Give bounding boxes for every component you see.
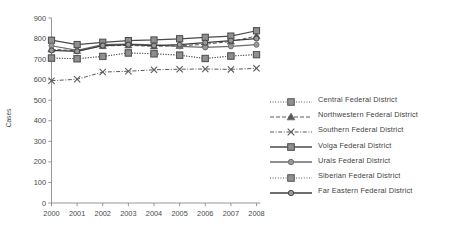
data-point-marker — [254, 36, 259, 41]
legend-item-label: Central Federal District — [314, 95, 397, 104]
legend-item: Siberian Federal District — [268, 168, 454, 183]
x-tick-label: 2008 — [248, 209, 264, 218]
legend-key-square-icon — [268, 139, 314, 151]
data-point-marker — [151, 43, 156, 48]
data-point-marker — [288, 98, 295, 105]
data-point-marker — [253, 51, 259, 57]
data-point-marker — [100, 69, 106, 75]
data-point-marker — [74, 56, 80, 62]
y-tick-label: 0 — [42, 199, 46, 208]
data-point-marker — [151, 51, 157, 57]
data-point-marker — [228, 44, 233, 49]
y-tick-label: 700 — [34, 55, 46, 64]
data-point-marker — [74, 41, 80, 47]
chart-legend: Central Federal DistrictNorthwestern Fed… — [268, 92, 454, 198]
data-point-marker — [75, 49, 80, 54]
data-point-marker — [48, 55, 54, 61]
y-tick-label: 400 — [34, 116, 46, 125]
legend-item: Far Eastern Federal District — [268, 183, 454, 198]
data-point-marker — [100, 53, 106, 59]
data-point-marker — [177, 36, 183, 42]
data-point-marker — [288, 144, 295, 151]
data-point-marker — [100, 43, 105, 48]
legend-key-circle-icon — [268, 154, 314, 166]
y-tick-label: 900 — [34, 14, 46, 23]
data-point-marker — [228, 53, 234, 59]
x-tick-label: 2000 — [43, 209, 59, 218]
legend-item-label: Urals Federal District — [314, 156, 390, 165]
legend-item: Volga Federal District — [268, 138, 454, 153]
legend-key-square-icon — [268, 170, 314, 182]
legend-item-label: Northwestern Federal District — [314, 110, 418, 119]
legend-key-circle-icon — [268, 185, 314, 197]
legend-item-label: Siberian Federal District — [314, 171, 401, 180]
x-axis: 200020012002200320042005200620072008 — [43, 203, 264, 218]
y-tick-label: 300 — [34, 137, 46, 146]
data-point-marker — [203, 40, 208, 45]
legend-key-triangle-icon — [268, 109, 314, 121]
legend-item-label: Far Eastern Federal District — [314, 186, 413, 195]
series-lines — [48, 28, 260, 84]
y-tick-label: 100 — [34, 178, 46, 187]
legend-item: Urals Federal District — [268, 153, 454, 168]
data-point-marker — [126, 42, 131, 47]
data-point-marker — [253, 65, 259, 71]
x-tick-label: 2002 — [95, 209, 111, 218]
y-axis-title: Cases — [5, 108, 12, 127]
y-tick-label: 800 — [34, 34, 46, 43]
data-point-marker — [288, 190, 293, 195]
data-point-marker — [74, 76, 80, 82]
data-point-marker — [288, 174, 295, 181]
data-point-marker — [177, 52, 183, 58]
data-point-marker — [253, 28, 259, 34]
y-tick-label: 200 — [34, 157, 46, 166]
y-tick-label: 500 — [34, 96, 46, 105]
legend-item-label: Volga Federal District — [314, 141, 392, 150]
data-point-marker — [202, 55, 208, 61]
x-tick-label: 2007 — [223, 209, 239, 218]
legend-item: Central Federal District — [268, 92, 454, 107]
data-point-marker — [177, 42, 182, 47]
data-point-marker — [228, 38, 233, 43]
legend-key-square-icon — [268, 94, 314, 106]
line-chart: 0100200300400500600700800900 20002001200… — [0, 0, 454, 236]
legend-item: Southern Federal District — [268, 122, 454, 137]
legend-item: Northwestern Federal District — [268, 107, 454, 122]
data-point-marker — [254, 42, 259, 47]
x-tick-label: 2006 — [197, 209, 213, 218]
series-2 — [48, 65, 259, 84]
data-point-marker — [125, 50, 131, 56]
x-tick-label: 2001 — [69, 209, 85, 218]
data-point-marker — [48, 37, 54, 43]
data-point-marker — [49, 48, 54, 53]
x-tick-label: 2005 — [171, 209, 187, 218]
data-point-marker — [202, 34, 208, 40]
x-tick-label: 2004 — [146, 209, 162, 218]
y-tick-label: 600 — [34, 75, 46, 84]
x-tick-label: 2003 — [120, 209, 136, 218]
data-point-marker — [288, 160, 293, 165]
legend-item-label: Southern Federal District — [314, 125, 403, 134]
legend-key-x-icon — [268, 124, 314, 136]
